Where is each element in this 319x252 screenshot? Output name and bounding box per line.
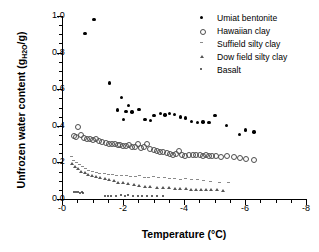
x-tick-label: -6 [232, 204, 258, 213]
data-point [184, 116, 187, 119]
x-tick-label: -4 [171, 204, 197, 213]
data-point [107, 174, 110, 175]
data-point [132, 195, 134, 197]
data-point [209, 188, 213, 191]
data-point [163, 113, 166, 116]
data-point [147, 177, 150, 178]
x-tick-minor [77, 199, 78, 203]
y-tick-minor [59, 98, 63, 99]
x-tick-minor [199, 199, 200, 203]
data-point [196, 121, 199, 124]
unfrozen-water-content-chart: 0.00.20.40.60.81.0 -0-2-4-6-8 Unfrozen w… [0, 0, 319, 252]
data-point [179, 179, 182, 180]
x-tick-minor [230, 199, 231, 203]
y-tick-label: 0.8 [31, 48, 65, 57]
data-point [98, 173, 101, 174]
data-point [152, 176, 155, 177]
x-tick-minor [108, 199, 109, 203]
y-tick-minor [59, 117, 63, 118]
data-point [78, 164, 81, 165]
data-point [130, 110, 133, 113]
data-point [127, 194, 129, 196]
data-point [137, 195, 139, 197]
y-tick-minor [59, 71, 63, 72]
x-tick-label: -2 [110, 204, 136, 213]
data-point [218, 182, 221, 183]
data-point [207, 121, 210, 124]
data-point [237, 155, 243, 161]
x-tick-minor [154, 199, 155, 203]
data-point [221, 189, 225, 192]
data-point [137, 108, 140, 111]
data-point [218, 154, 224, 160]
data-point [148, 185, 152, 188]
x-tick-minor [93, 199, 94, 203]
data-point [120, 96, 123, 99]
data-point [111, 174, 114, 175]
y-tick-minor [59, 80, 63, 81]
data-point [156, 195, 158, 197]
data-point [103, 173, 106, 174]
data-point [244, 128, 247, 131]
data-point [190, 179, 193, 180]
data-point [121, 181, 125, 184]
data-point [231, 154, 237, 160]
legend-label: Dow field silty clay [217, 51, 287, 63]
data-point [194, 188, 198, 191]
y-tick-label: 1.0 [31, 11, 65, 20]
data-point [75, 162, 78, 163]
data-point [173, 113, 176, 116]
data-point [168, 178, 171, 179]
y-tick-label: 0.2 [31, 157, 65, 166]
data-point [108, 81, 111, 84]
y-tick-label: 0.6 [31, 84, 65, 93]
data-point [122, 118, 125, 121]
data-point [168, 112, 171, 115]
data-point [143, 185, 147, 188]
y-tick-minor [59, 62, 63, 63]
data-point [84, 168, 87, 169]
data-point [167, 186, 171, 189]
data-point [137, 184, 141, 187]
data-point [87, 170, 90, 171]
y-tick-label: 0.4 [31, 121, 65, 130]
legend-marker-icon [200, 16, 203, 19]
data-point [112, 179, 116, 182]
y-tick-minor [59, 108, 63, 109]
data-point [225, 124, 228, 127]
y-tick-minor [59, 172, 63, 173]
x-tick-minor [260, 199, 261, 203]
y-tick-minor [59, 153, 63, 154]
y-axis-title: Unfrozen water content (gH2O/g) [15, 15, 27, 205]
legend-marker-icon [200, 42, 203, 43]
data-point [155, 186, 159, 189]
data-point [161, 186, 165, 189]
legend-label: Suffield silty clay [217, 38, 280, 50]
data-point [179, 115, 182, 118]
data-point [152, 114, 155, 117]
data-point [202, 180, 205, 181]
data-point [209, 181, 212, 182]
data-point [92, 18, 95, 21]
data-point [215, 188, 219, 191]
data-point [159, 112, 162, 115]
data-point [173, 187, 177, 190]
data-point [129, 176, 132, 177]
data-point [151, 195, 153, 197]
data-point [143, 177, 146, 178]
data-point [184, 178, 187, 179]
data-point [224, 153, 230, 159]
data-point [201, 120, 204, 123]
data-point [103, 177, 107, 180]
data-point [116, 108, 119, 111]
data-point [127, 104, 130, 107]
y-tick-minor [59, 34, 63, 35]
y-tick-minor [59, 144, 63, 145]
data-point [204, 188, 208, 191]
x-tick-label: -8 [293, 204, 319, 213]
data-point [189, 188, 193, 191]
data-point [213, 114, 216, 117]
data-point [125, 175, 128, 176]
data-point [157, 177, 160, 178]
data-point [190, 120, 193, 123]
